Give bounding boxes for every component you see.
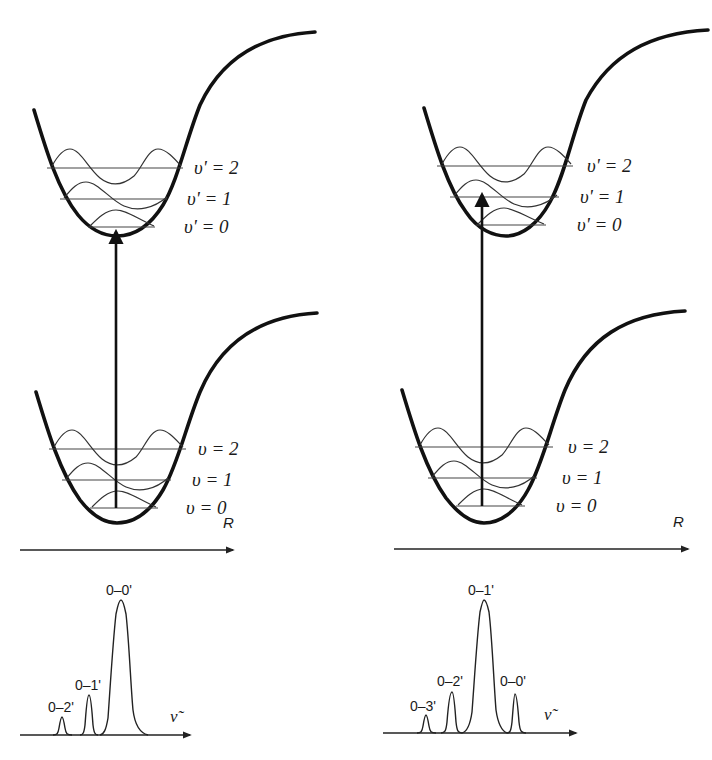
franck-condon-diagram: υ' = 2 υ' = 1 υ' = 0 υ = 2 υ = 1 υ = 0 R… [0, 0, 712, 760]
lower-potential-curve [36, 313, 317, 523]
label-v-prime-2: υ' = 2 [194, 157, 239, 178]
label-v-2: υ = 2 [198, 438, 239, 459]
label-v-1: υ = 1 [192, 469, 233, 490]
label-v-0: υ = 0 [186, 497, 227, 518]
peak-label-0-0: 0–0' [106, 582, 132, 598]
peak-label-0-1: 0–1' [468, 582, 494, 598]
wavenumber-axis-label: ν̃ [544, 705, 559, 724]
wavenumber-axis-label: ν̃ [170, 707, 185, 726]
left-panel: υ' = 2 υ' = 1 υ' = 0 υ = 2 υ = 1 υ = 0 R… [20, 32, 317, 735]
label-v-prime-2: υ' = 2 [587, 155, 632, 176]
left-lower-potential: υ = 2 υ = 1 υ = 0 [36, 313, 317, 523]
wavefunction-v-0 [458, 489, 522, 505]
peak-label-0-2: 0–2' [437, 673, 463, 689]
wavefunction-v-2 [420, 428, 549, 463]
peak-label-0-2: 0–2' [48, 699, 74, 715]
right-upper-potential: υ' = 2 υ' = 1 υ' = 0 [424, 30, 708, 236]
peak-label-0-3: 0–3' [410, 698, 436, 714]
label-v-1: υ = 1 [562, 467, 603, 488]
wavefunction-v-2 [54, 430, 183, 465]
wavefunction-v-prime-2 [52, 149, 181, 184]
label-v-prime-1: υ' = 1 [580, 186, 625, 207]
lower-potential-curve [402, 311, 685, 523]
label-v-prime-1: υ' = 1 [187, 188, 232, 209]
upper-potential-curve [34, 32, 315, 236]
peak-label-0-0: 0–0' [500, 673, 526, 689]
wavefunction-v-prime-1 [64, 182, 167, 209]
left-upper-potential: υ' = 2 υ' = 1 υ' = 0 [34, 32, 315, 237]
wavefunction-v-prime-2 [442, 147, 571, 182]
wavefunction-v-prime-0 [90, 210, 154, 226]
label-v-prime-0: υ' = 0 [184, 216, 229, 237]
left-spectrum: 0–2' 0–1' 0–0' ν̃ [20, 582, 190, 735]
wavefunction-v-prime-1 [454, 180, 557, 207]
right-lower-potential: υ = 2 υ = 1 υ = 0 [402, 311, 685, 523]
label-v-2: υ = 2 [568, 436, 609, 457]
r-axis-label: R [673, 513, 684, 530]
label-v-prime-0: υ' = 0 [577, 214, 622, 235]
right-spectrum: 0–3' 0–2' 0–1' 0–0' ν̃ [383, 582, 576, 733]
wavefunction-v-0 [92, 491, 156, 507]
peak-label-0-1: 0–1' [75, 677, 101, 693]
right-panel: υ' = 2 υ' = 1 υ' = 0 υ = 2 υ = 1 υ = 0 R… [383, 30, 708, 733]
r-axis-label: R [223, 514, 234, 531]
label-v-0: υ = 0 [556, 495, 597, 516]
upper-potential-curve [424, 30, 708, 236]
